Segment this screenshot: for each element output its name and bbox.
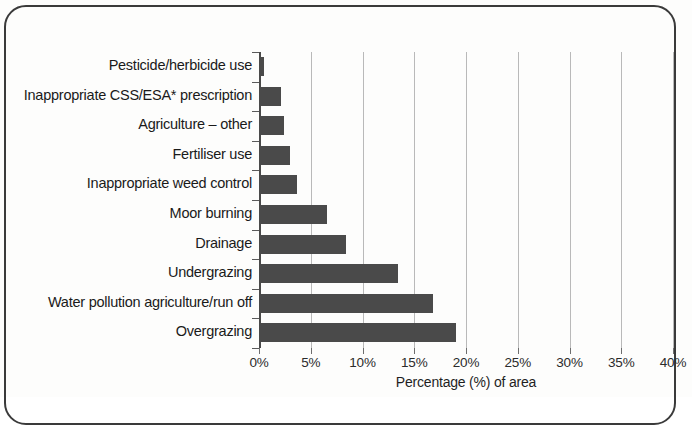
x-axis-tick-label: 40%	[660, 355, 686, 370]
bar	[259, 116, 284, 135]
gridline	[673, 52, 674, 348]
x-axis-tick	[466, 348, 467, 354]
x-axis-tick	[621, 348, 622, 354]
bar-row: Fertiliser use	[259, 141, 673, 171]
bar-row: Inappropriate CSS/ESA* prescription	[259, 82, 673, 112]
y-axis-tick	[252, 318, 259, 319]
x-axis-tick	[311, 348, 312, 354]
y-axis-category-label: Inappropriate CSS/ESA* prescription	[24, 85, 252, 105]
x-axis-tick-label: 0%	[249, 355, 268, 370]
y-axis-tick	[252, 82, 259, 83]
x-axis-tick-label: 25%	[505, 355, 531, 370]
bar	[259, 57, 264, 76]
bar-row: Undergrazing	[259, 259, 673, 289]
y-axis-category-label: Water pollution agriculture/run off	[48, 292, 252, 312]
bar	[259, 294, 433, 313]
y-axis-category-label: Inappropriate weed control	[87, 173, 252, 193]
bar-row: Pesticide/herbicide use	[259, 52, 673, 82]
x-axis-tick-label: 10%	[349, 355, 375, 370]
bar-row: Drainage	[259, 230, 673, 260]
bar-row: Water pollution agriculture/run off	[259, 289, 673, 319]
y-axis-tick	[252, 200, 259, 201]
x-axis-tick	[518, 348, 519, 354]
y-axis-category-label: Drainage	[195, 233, 252, 253]
y-axis-tick	[252, 141, 259, 142]
bar	[259, 205, 327, 224]
y-axis-tick	[252, 289, 259, 290]
x-axis-tick	[363, 348, 364, 354]
x-axis-tick	[570, 348, 571, 354]
y-axis-category-label: Fertiliser use	[173, 144, 253, 164]
x-axis-tick-label: 30%	[556, 355, 582, 370]
x-axis-tick-label: 15%	[401, 355, 427, 370]
y-axis-category-label: Pesticide/herbicide use	[109, 55, 252, 75]
y-axis-tick	[252, 170, 259, 171]
y-axis-tick	[252, 111, 259, 112]
bar	[259, 323, 456, 342]
bar-row: Agriculture – other	[259, 111, 673, 141]
bar	[259, 264, 398, 283]
bar	[259, 87, 281, 106]
plot-area: 0%5%10%15%20%25%30%35%40%Pesticide/herbi…	[259, 52, 673, 348]
x-axis-tick-label: 20%	[453, 355, 479, 370]
y-axis-category-label: Moor burning	[170, 203, 252, 223]
x-axis-tick	[259, 348, 260, 354]
y-axis-tick	[252, 52, 259, 53]
y-axis-category-label: Overgrazing	[176, 321, 252, 341]
bar-row: Overgrazing	[259, 318, 673, 348]
x-axis-tick-label: 5%	[301, 355, 320, 370]
x-axis-tick	[414, 348, 415, 354]
y-axis-category-label: Undergrazing	[168, 262, 252, 282]
y-axis-tick	[252, 230, 259, 231]
bar	[259, 146, 290, 165]
y-axis-category-label: Agriculture – other	[138, 114, 252, 134]
x-axis-title: Percentage (%) of area	[259, 374, 673, 390]
bar	[259, 235, 346, 254]
bar	[259, 175, 297, 194]
x-axis-tick	[673, 348, 674, 354]
y-axis-tick	[252, 348, 259, 349]
x-axis-tick-label: 35%	[608, 355, 634, 370]
bar-row: Moor burning	[259, 200, 673, 230]
bar-row: Inappropriate weed control	[259, 170, 673, 200]
y-axis-tick	[252, 259, 259, 260]
